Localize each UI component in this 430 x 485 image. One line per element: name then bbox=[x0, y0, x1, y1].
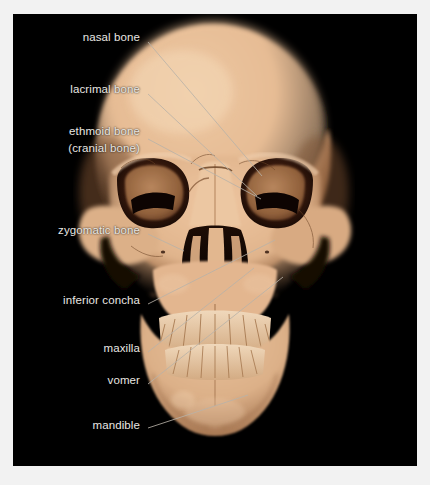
label-cranial-bone: (cranial bone) bbox=[0, 141, 140, 155]
label-zygomatic-bone: zygomatic bone bbox=[0, 223, 140, 237]
label-inferior-concha: inferior concha bbox=[0, 293, 140, 307]
label-ethmoid-bone: ethmoid bone bbox=[0, 124, 140, 138]
orbit-right bbox=[241, 158, 313, 228]
label-mandible: mandible bbox=[0, 418, 140, 432]
label-maxilla: maxilla bbox=[0, 341, 140, 355]
label-vomer: vomer bbox=[0, 373, 140, 387]
anatomy-figure: nasal bone lacrimal bone ethmoid bone (c… bbox=[0, 0, 430, 485]
label-nasal-bone: nasal bone bbox=[0, 30, 140, 44]
label-lacrimal-bone: lacrimal bone bbox=[0, 82, 140, 96]
